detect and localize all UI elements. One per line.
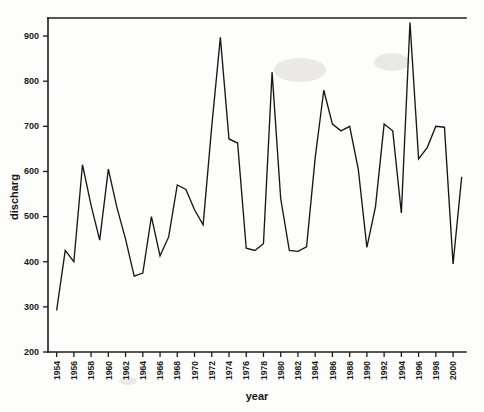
- x-axis-tick-label: 1988: [345, 361, 355, 380]
- y-axis-tick-label: 300: [24, 302, 39, 312]
- discharge-line-chart: 200300400500600700800900 195419561958196…: [0, 0, 484, 412]
- y-axis-tick-label: 400: [24, 257, 39, 267]
- x-axis-tick-label: 1974: [224, 361, 234, 380]
- y-axis-tick-label: 600: [24, 166, 39, 176]
- scan-artifact: [374, 53, 410, 71]
- x-axis-tick-label: 1982: [293, 361, 303, 380]
- x-axis-title: year: [246, 390, 269, 402]
- x-axis-tick-label: 1966: [155, 361, 165, 380]
- x-axis-tick-label: 1984: [310, 361, 320, 380]
- y-axis-tick-label: 700: [24, 121, 39, 131]
- x-axis-tick-label: 1960: [104, 361, 114, 380]
- x-axis-tick-label: 1980: [276, 361, 286, 380]
- y-axis-title: discharg: [8, 174, 20, 220]
- y-axis-tick-label: 500: [24, 211, 39, 221]
- y-axis-tick-label: 800: [24, 76, 39, 86]
- x-axis-tick-label: 1954: [52, 361, 62, 380]
- x-axis-tick-label: 1976: [241, 361, 251, 380]
- scan-artifact: [274, 58, 326, 82]
- x-axis-tick-label: 1964: [138, 361, 148, 380]
- x-axis-tick-label: 1992: [379, 361, 389, 380]
- x-axis-tick-label: 1962: [121, 361, 131, 380]
- x-axis-tick-label: 2000: [448, 361, 458, 380]
- x-axis-tick-label: 1972: [207, 361, 217, 380]
- x-axis-tick-label: 1970: [190, 361, 200, 380]
- chart-figure: 200300400500600700800900 195419561958196…: [0, 0, 484, 412]
- x-axis-tick-label: 1996: [414, 361, 424, 380]
- x-axis-tick-label: 1968: [172, 361, 182, 380]
- x-axis-tick-label: 1998: [431, 361, 441, 380]
- x-axis-tick-label: 1978: [259, 361, 269, 380]
- y-axis-tick-label: 900: [24, 31, 39, 41]
- chart-background: [0, 0, 484, 412]
- x-axis-tick-label: 1986: [328, 361, 338, 380]
- x-axis-tick-label: 1990: [362, 361, 372, 380]
- x-axis-tick-label: 1994: [397, 361, 407, 380]
- x-axis-tick-label: 1958: [86, 361, 96, 380]
- x-axis-tick-label: 1956: [69, 361, 79, 380]
- y-axis-tick-label: 200: [24, 347, 39, 357]
